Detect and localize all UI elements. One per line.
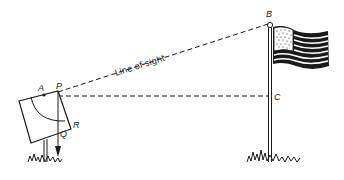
- label-p: P: [56, 81, 62, 91]
- line-of-sight-label: Line of sight: [114, 52, 167, 77]
- flagpole-finial: [267, 22, 272, 27]
- us-flag-icon: [273, 26, 329, 69]
- flagpole: [269, 27, 272, 162]
- label-r: R: [73, 120, 80, 130]
- label-b: B: [266, 9, 272, 19]
- grass-left-icon: [28, 154, 62, 162]
- plumb-arrow-icon: [55, 146, 61, 157]
- point-a-marker: [42, 93, 45, 96]
- label-q: Q: [60, 129, 67, 139]
- diagram-canvas: Line of sight A P R Q: [0, 0, 344, 180]
- grass-right-icon: [247, 150, 300, 162]
- label-c: C: [274, 92, 281, 102]
- label-a: A: [37, 83, 44, 93]
